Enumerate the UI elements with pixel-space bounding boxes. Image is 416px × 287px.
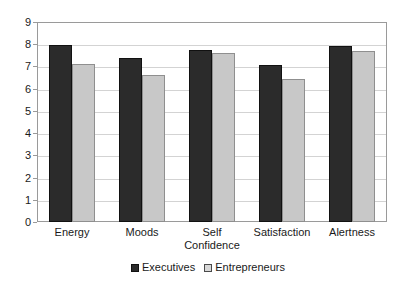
legend-label: Entrepreneurs (215, 262, 285, 273)
bar-executives[interactable] (189, 50, 212, 222)
y-axis: 0123456789 (0, 22, 31, 222)
bar-entrepreneurs[interactable] (352, 51, 375, 222)
bar-entrepreneurs[interactable] (142, 75, 165, 222)
bar-entrepreneurs[interactable] (72, 64, 95, 222)
legend-item[interactable]: Executives (131, 262, 195, 273)
bar-group (49, 22, 95, 222)
y-tick-label: 6 (0, 83, 31, 94)
y-tick-label: 4 (0, 128, 31, 139)
x-axis: EnergyMoodsSelf ConfidenceSatisfactionAl… (37, 226, 387, 260)
bar-entrepreneurs[interactable] (212, 53, 235, 222)
x-axis-category-label: Self Confidence (177, 226, 247, 252)
bar-group (329, 22, 375, 222)
bars-layer (37, 22, 387, 222)
y-tick-label: 2 (0, 172, 31, 183)
bar-executives[interactable] (259, 65, 282, 222)
y-tick-label: 0 (0, 217, 31, 228)
light-square-swatch (204, 264, 212, 272)
x-axis-category-label: Satisfaction (247, 226, 317, 239)
x-axis-category-label: Alertness (317, 226, 387, 239)
x-axis-category-label: Moods (107, 226, 177, 239)
bar-group (259, 22, 305, 222)
bar-executives[interactable] (329, 46, 352, 222)
y-tick-mark (33, 222, 37, 223)
y-tick-label: 3 (0, 150, 31, 161)
legend-label: Executives (142, 262, 195, 273)
bar-group (119, 22, 165, 222)
bar-executives[interactable] (119, 58, 142, 222)
y-tick-label: 7 (0, 61, 31, 72)
chart-legend: ExecutivesEntrepreneurs (0, 262, 416, 273)
bar-executives[interactable] (49, 45, 72, 222)
y-tick-label: 9 (0, 17, 31, 28)
dark-square-swatch (131, 264, 139, 272)
bar-entrepreneurs[interactable] (282, 79, 305, 222)
bar-chart: 0123456789 EnergyMoodsSelf ConfidenceSat… (0, 0, 416, 287)
legend-item[interactable]: Entrepreneurs (204, 262, 285, 273)
y-tick-label: 8 (0, 39, 31, 50)
y-tick-label: 1 (0, 194, 31, 205)
x-axis-category-label: Energy (37, 226, 107, 239)
y-tick-label: 5 (0, 105, 31, 116)
bar-group (189, 22, 235, 222)
